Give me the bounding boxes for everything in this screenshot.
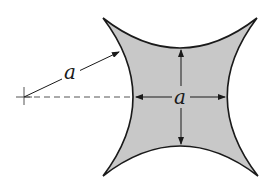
center-crosshair-icon: [16, 87, 32, 105]
width-label: a: [174, 85, 186, 109]
radius-label: a: [64, 60, 76, 84]
concave-square-diagram: a a: [0, 0, 273, 189]
